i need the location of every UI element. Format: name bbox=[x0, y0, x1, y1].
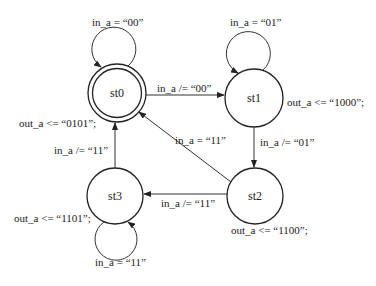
label-st1-self: in_a = “01” bbox=[230, 16, 282, 28]
self-loop-st3 bbox=[95, 222, 137, 260]
output-st3: out_a <= “1101”; bbox=[14, 212, 91, 224]
state-st1-label: st1 bbox=[247, 91, 261, 105]
label-st3-self: in_a = “11” bbox=[95, 256, 146, 268]
edge-st2-st0 bbox=[139, 112, 231, 182]
output-st0: out_a <= “0101”; bbox=[19, 117, 96, 129]
state-st0: st0 bbox=[88, 64, 146, 122]
label-st3-st0: in_a /= “11” bbox=[54, 144, 108, 156]
self-loop-st0 bbox=[92, 27, 136, 67]
output-st1: out_a <= “1000”; bbox=[287, 96, 364, 108]
state-st3: st3 bbox=[87, 168, 143, 224]
state-st3-label: st3 bbox=[108, 189, 122, 203]
label-st0-st1: in_a /= “00” bbox=[157, 82, 212, 94]
state-st2: st2 bbox=[227, 168, 283, 224]
label-st0-self: in_a = “00” bbox=[92, 16, 144, 28]
output-st2: out_a <= “1100”; bbox=[231, 224, 308, 236]
state-diagram: st0 st1 st2 st3 in_a = “00” in_a /= “00”… bbox=[0, 0, 376, 286]
self-loop-st1 bbox=[226, 32, 270, 73]
state-st1: st1 bbox=[225, 69, 283, 127]
state-st2-label: st2 bbox=[248, 189, 262, 203]
state-st0-label: st0 bbox=[110, 86, 124, 100]
label-st2-st3: in_a /= “11” bbox=[161, 197, 215, 209]
label-st2-st0: in_a = “11” bbox=[175, 134, 226, 146]
label-st1-st2: in_a /= “01” bbox=[260, 136, 315, 148]
